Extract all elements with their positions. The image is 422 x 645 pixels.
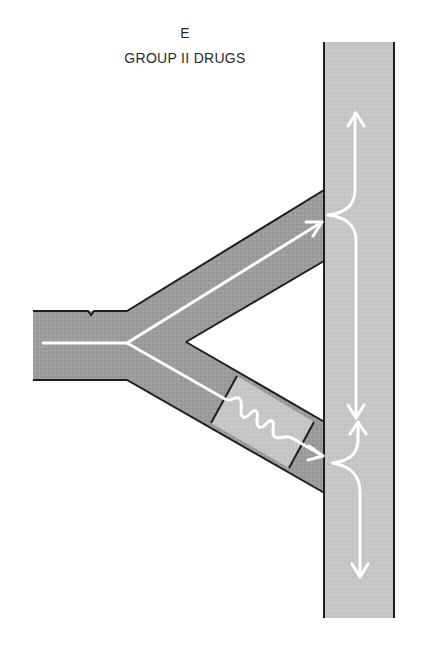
pathway-diagram [0,0,422,645]
upper-branch-flow-line [127,222,322,343]
lower-branch-flow-line [127,343,323,456]
